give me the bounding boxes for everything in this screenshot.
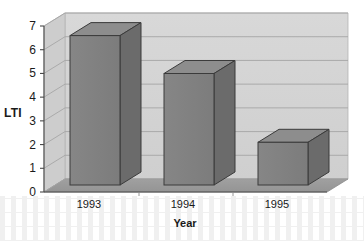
x-tick-label-1993: 1993 — [64, 199, 114, 210]
y-axis — [40, 26, 44, 192]
plot-left-wall — [44, 13, 65, 192]
x-axis — [44, 192, 327, 196]
bar-1993-side — [120, 23, 141, 185]
y-tick-label-7: 7 — [20, 20, 36, 32]
bar-1995 — [258, 129, 329, 185]
y-tick-label-4: 4 — [20, 91, 36, 103]
chart-figure: 7 6 5 4 3 2 1 0 LTI 1993 1994 1995 Year — [0, 0, 364, 241]
x-tick-label-1995: 1995 — [252, 199, 302, 210]
bar-1993 — [70, 23, 141, 185]
bar-1994-front — [164, 74, 214, 186]
y-tick-label-6: 6 — [20, 44, 36, 56]
y-tick-label-3: 3 — [20, 115, 36, 127]
y-tick-label-2: 2 — [20, 139, 36, 151]
x-tick-label-1994: 1994 — [158, 199, 208, 210]
bar-1993-front — [70, 36, 120, 185]
bar-1994-side — [214, 61, 235, 186]
bar-1995-front — [258, 142, 308, 185]
y-tick-label-5: 5 — [20, 67, 36, 79]
x-axis-title: Year — [155, 218, 215, 229]
bar-1994 — [164, 61, 235, 186]
y-tick-label-0: 0 — [20, 186, 36, 198]
y-tick-label-1: 1 — [20, 162, 36, 174]
y-axis-title: LTI — [4, 107, 22, 119]
